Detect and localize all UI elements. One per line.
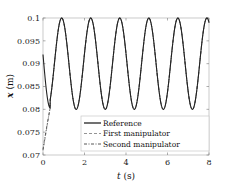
legend-label: First manipulator	[103, 129, 170, 138]
y-tick-label: 0.08	[22, 105, 40, 114]
legend: ReferenceFirst manipulatorSecond manipul…	[81, 116, 209, 151]
y-tick-label: 0.07	[22, 151, 40, 160]
x-tick-label: 4	[123, 158, 128, 167]
y-tick-label: 0.1	[27, 14, 40, 23]
y-tick-label: 0.085	[17, 82, 40, 91]
y-tick-label: 0.075	[17, 128, 40, 137]
legend-label: Second manipulator	[103, 140, 180, 149]
y-tick-label: 0.09	[22, 59, 40, 68]
x-axis-label: t (s)	[117, 171, 135, 181]
line-chart: 0.070.0750.080.0850.090.0950.1 02468 Ref…	[0, 0, 227, 185]
x-tick-label: 0	[40, 158, 45, 167]
x-tick-label: 8	[206, 158, 211, 167]
legend-label: Reference	[103, 119, 142, 128]
x-tick-label: 2	[82, 158, 87, 167]
y-axis-label: x (m)	[5, 74, 15, 99]
y-tick-label: 0.095	[17, 37, 40, 46]
x-tick-label: 6	[165, 158, 170, 167]
